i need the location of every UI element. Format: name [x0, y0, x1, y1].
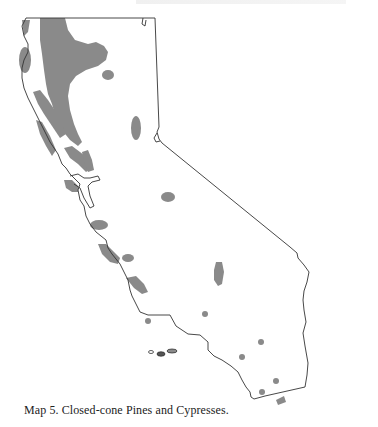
california-map [0, 0, 378, 427]
monterey-patch [98, 244, 120, 264]
dot-patch [258, 339, 264, 345]
santa-cruz-patch [90, 220, 108, 230]
north-coast-patch [19, 47, 31, 73]
sierra-central-patch [161, 192, 175, 202]
map-caption: Map 5. Closed-cone Pines and Cypresses. [24, 403, 229, 418]
sierra-south-patch [214, 262, 224, 286]
dot-patch [239, 354, 245, 360]
dot-patch [202, 311, 208, 317]
goose-lake [142, 18, 146, 26]
dot-patch [273, 378, 279, 384]
sierra-north-patch [131, 116, 141, 140]
shasta-patch [102, 70, 114, 80]
dot-patch [259, 389, 265, 395]
lake-tahoe [154, 133, 160, 142]
island-santa-rosa [157, 352, 165, 356]
san-diego-patch [276, 396, 286, 405]
big-sur-patch [122, 254, 134, 262]
klamath-patch [40, 18, 108, 146]
bay-area-patch [64, 180, 78, 192]
island-santa-cruz [167, 349, 177, 353]
channel-islands [149, 349, 178, 356]
dot-patch [145, 318, 151, 324]
island-san-miguel [149, 351, 154, 354]
